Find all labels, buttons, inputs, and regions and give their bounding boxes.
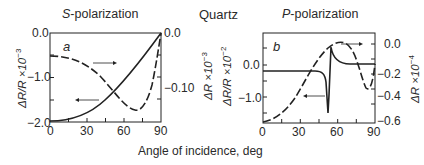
panel-b-right-tick: 0.0 — [384, 37, 401, 51]
panel-a-left-tick: 0.0 — [32, 26, 49, 40]
panel-a-left-axis-label-text: ΔR/R ×10 — [16, 58, 28, 108]
panel-a-letter: a — [63, 39, 70, 54]
panel-a-left-axis-label: ΔR/R ×10−3 — [14, 49, 28, 108]
panel-b-right-axis-label-text: ΔR ×10 — [409, 64, 421, 103]
panel-b-x-tick: 60 — [330, 125, 343, 139]
panel-b-x-tick: 30 — [292, 125, 305, 139]
panel-a-left-axis-label-exp: −3 — [14, 49, 23, 58]
panel-a-right-axis-label-text: ΔR ×10 — [202, 61, 214, 100]
panel-b-right-tick: −0.2 — [377, 67, 401, 81]
panel-a-right-tick: −0.10 — [164, 81, 194, 95]
panel-a-x-tick: 30 — [80, 124, 93, 138]
panel-b-left-tick: 0.0 — [243, 58, 260, 72]
panel-a-x-tick: 90 — [154, 124, 167, 138]
panel-a-right-tick: 0.0 — [164, 26, 181, 40]
panel-b-left-axis-label-text: ΔR/R ×10 — [221, 56, 233, 106]
panel-a-left-tick: −1.0 — [27, 70, 51, 84]
x-axis-label: Angle of incidence, deg — [138, 144, 263, 158]
panel-b-left-axis-label: ΔR/R ×10−2 — [219, 47, 233, 106]
panel-b-right-tick: −0.6 — [377, 114, 401, 128]
panel-b-right-axis-label-exp: −4 — [407, 55, 416, 64]
panel-b-letter: b — [273, 39, 280, 54]
panel-b-left-tick: −1.0 — [238, 91, 262, 105]
panel-b-left-axis-label-exp: −2 — [219, 47, 228, 56]
panel-b-right-tick: −0.4 — [377, 89, 401, 103]
panel-a-x-tick: 60 — [117, 124, 130, 138]
panel-a-x-tick: 0 — [47, 124, 54, 138]
panel-b-x-tick: 0 — [259, 125, 266, 139]
panel-b-x-tick: 90 — [367, 125, 380, 139]
panel-a-right-axis-label-exp: −3 — [200, 52, 209, 61]
panel-b-right-axis-label: ΔR ×10−4 — [407, 55, 421, 103]
panel-a-right-axis-label: ΔR ×10−3 — [200, 52, 214, 100]
